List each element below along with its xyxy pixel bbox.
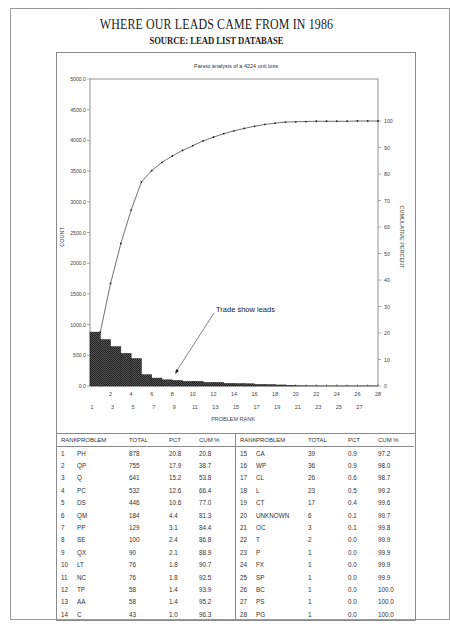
header-cum: CUM %: [199, 437, 233, 443]
cell-pct: 0.0: [348, 549, 378, 556]
cell-total: 878: [129, 450, 169, 457]
cell-total: 58: [129, 586, 169, 593]
bar: [183, 381, 193, 386]
arrow-head-icon: [175, 369, 179, 374]
table-row: 17CL260.698.7: [236, 472, 414, 484]
cell-problem: SP: [256, 574, 308, 581]
header-problem: PROBLEM: [256, 437, 308, 443]
cell-problem: Q: [77, 474, 129, 481]
cell-problem: WP: [256, 462, 308, 469]
y2-tick-label: 100: [384, 118, 393, 124]
cell-rank: 17: [236, 474, 256, 481]
x-tick-label-upper: 16: [252, 391, 258, 397]
table-row: 25SP10.099.9: [236, 571, 414, 583]
cell-rank: 9: [57, 549, 77, 556]
cell-total: 6: [308, 512, 348, 519]
cell-pct: 0.4: [348, 499, 378, 506]
table-row: 23P10.099.9: [236, 546, 414, 558]
table-row: 19CT170.499.6: [236, 497, 414, 509]
cell-pct: 20.8: [169, 450, 199, 457]
cell-pct: 0.5: [348, 487, 378, 494]
cumulative-point: [192, 145, 194, 147]
y2-tick-label: 10: [384, 357, 390, 363]
cell-rank: 12: [57, 586, 77, 593]
cumulative-point: [151, 170, 153, 172]
x-tick-label-lower: 19: [274, 404, 280, 410]
cell-total: 100: [129, 536, 169, 543]
table-header: RANK PROBLEM TOTAL PCT CUM %: [236, 434, 414, 447]
cell-rank: 19: [236, 499, 256, 506]
cell-total: 3: [308, 524, 348, 531]
cell-pct: 1.0: [169, 611, 199, 618]
cumulative-point: [285, 121, 287, 123]
cell-problem: PG: [256, 611, 308, 618]
cell-problem: TP: [77, 586, 129, 593]
cell-total: 43: [129, 611, 169, 618]
y2-tick-label: 70: [384, 198, 390, 204]
cumulative-point: [213, 136, 215, 138]
cell-problem: T: [256, 536, 308, 543]
cell-cum-pct: 100.0: [378, 586, 412, 593]
cumulative-point: [182, 150, 184, 152]
cell-cum-pct: 81.3: [199, 512, 233, 519]
data-table: RANK PROBLEM TOTAL PCT CUM % 1PH87820.82…: [56, 434, 416, 621]
cell-total: 755: [129, 462, 169, 469]
cell-cum-pct: 99.7: [378, 512, 412, 519]
cell-cum-pct: 88.9: [199, 549, 233, 556]
table-row: 5DS44610.677.0: [57, 497, 235, 509]
cell-problem: PC: [77, 487, 129, 494]
x-tick-label-upper: 24: [334, 391, 340, 397]
cumulative-point: [99, 331, 101, 333]
cell-pct: 1.4: [169, 586, 199, 593]
bar: [90, 332, 100, 386]
cell-pct: 3.1: [169, 524, 199, 531]
header-problem: PROBLEM: [77, 437, 129, 443]
cell-problem: C: [77, 611, 129, 618]
cell-rank: 15: [236, 450, 256, 457]
x-tick-label-lower: 21: [295, 404, 301, 410]
cell-pct: 0.0: [348, 536, 378, 543]
cell-rank: 22: [236, 536, 256, 543]
cell-problem: CL: [256, 474, 308, 481]
cumulative-point: [357, 120, 359, 122]
cell-total: 76: [129, 574, 169, 581]
cell-pct: 0.0: [348, 561, 378, 568]
table-row: 16WP360.998.0: [236, 459, 414, 471]
cumulative-line: [100, 121, 378, 332]
table-row: 28PG10.0100.0: [236, 608, 414, 620]
x-tick-label-upper: 8: [171, 391, 174, 397]
bar: [203, 382, 213, 386]
plot-border: [90, 79, 378, 386]
cell-cum-pct: 77.0: [199, 499, 233, 506]
x-tick-label-lower: 5: [132, 404, 135, 410]
x-tick-label-upper: 14: [231, 391, 237, 397]
header-pct: PCT: [169, 437, 199, 443]
table-row: 2QP75517.938.7: [57, 459, 235, 471]
cell-rank: 27: [236, 598, 256, 605]
cumulative-point: [223, 133, 225, 135]
table-row: 11NC761.892.5: [57, 571, 235, 583]
x-tick-label-upper: 26: [354, 391, 360, 397]
cell-pct: 0.1: [348, 512, 378, 519]
bar: [172, 380, 182, 386]
cell-problem: QM: [77, 512, 129, 519]
cell-problem: CT: [256, 499, 308, 506]
cell-total: 2: [308, 536, 348, 543]
y2-tick-label: 20: [384, 330, 390, 336]
cell-cum-pct: 93.9: [199, 586, 233, 593]
x-tick-label-upper: 18: [272, 391, 278, 397]
cell-cum-pct: 100.0: [378, 598, 412, 605]
cumulative-point: [130, 209, 132, 211]
cell-cum-pct: 84.4: [199, 524, 233, 531]
cell-problem: SE: [77, 536, 129, 543]
cell-problem: UNKNOWN: [256, 512, 308, 519]
cell-total: 532: [129, 487, 169, 494]
x-tick-label-lower: 23: [315, 404, 321, 410]
cell-cum-pct: 98.7: [378, 474, 412, 481]
bar: [100, 340, 110, 386]
cell-cum-pct: 99.2: [378, 487, 412, 494]
annotation-arrow: [176, 313, 214, 372]
bar: [213, 382, 223, 386]
cell-pct: 15.2: [169, 474, 199, 481]
y-tick-label: 0.0: [79, 383, 86, 389]
